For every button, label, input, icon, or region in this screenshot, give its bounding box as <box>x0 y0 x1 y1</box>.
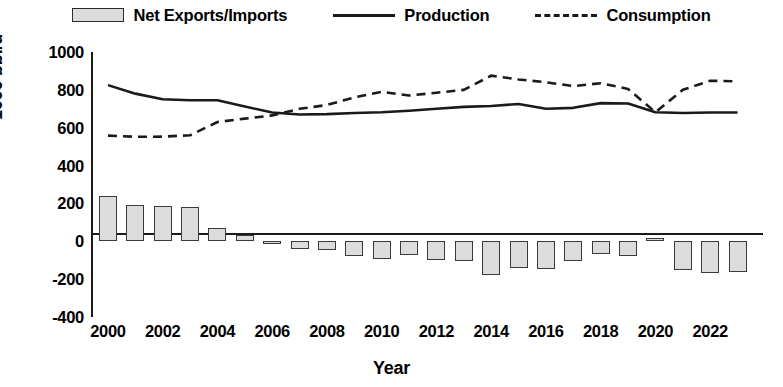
y-tick-label: 800 <box>22 82 84 99</box>
x-tick-label: 2002 <box>145 322 181 341</box>
chart-container: Net Exports/Imports Production Consumpti… <box>0 0 783 387</box>
y-tick-label: 0 <box>22 233 84 250</box>
legend-item-net-exports-imports: Net Exports/Imports <box>72 7 287 24</box>
x-axis-title: Year <box>0 358 783 379</box>
legend-item-consumption: Consumption <box>535 7 710 24</box>
y-axis-tick-labels: 10008006004002000-200-400 <box>14 52 84 317</box>
solid-line-swatch-icon <box>333 14 395 17</box>
x-tick-label: 2022 <box>692 322 728 341</box>
x-tick-label: 2008 <box>309 322 345 341</box>
legend-label-consumption: Consumption <box>606 7 710 24</box>
y-tick-label: -400 <box>22 309 84 326</box>
y-tick-label: 600 <box>22 119 84 136</box>
x-tick-label: 2010 <box>364 322 400 341</box>
y-tick-label: 1000 <box>22 44 84 61</box>
dashed-line-swatch-icon <box>535 14 597 17</box>
bar-swatch-icon <box>72 8 124 22</box>
x-axis-tick-labels: 2000200220042006200820102012201420162018… <box>91 322 763 346</box>
legend-label-net-exports-imports: Net Exports/Imports <box>133 7 287 24</box>
x-tick-label: 2014 <box>473 322 509 341</box>
y-axis-title: 1000 bbl/d <box>0 34 7 120</box>
line-consumption <box>108 76 738 137</box>
x-tick-label: 2016 <box>528 322 564 341</box>
y-tick-label: -200 <box>22 271 84 288</box>
x-tick-label: 2000 <box>90 322 126 341</box>
legend-label-production: Production <box>404 7 489 24</box>
chart-legend: Net Exports/Imports Production Consumpti… <box>0 0 783 30</box>
x-tick-label: 2020 <box>638 322 674 341</box>
plot-area <box>91 52 763 317</box>
y-tick-label: 400 <box>22 157 84 174</box>
line-production <box>108 85 738 114</box>
y-tick-label: 200 <box>22 195 84 212</box>
x-tick-label: 2012 <box>419 322 455 341</box>
x-tick-label: 2018 <box>583 322 619 341</box>
x-tick-label: 2004 <box>200 322 236 341</box>
line-series-group <box>91 52 763 317</box>
legend-item-production: Production <box>333 7 489 24</box>
x-tick-label: 2006 <box>254 322 290 341</box>
